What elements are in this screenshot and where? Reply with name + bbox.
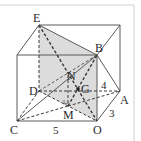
dimension-CO: 5 bbox=[53, 124, 59, 136]
dimension-OA: 3 bbox=[109, 107, 115, 119]
point-G bbox=[76, 87, 80, 91]
label-D: D bbox=[29, 84, 38, 98]
label-M: M bbox=[63, 108, 74, 122]
label-G: G bbox=[81, 82, 90, 96]
label-N: N bbox=[67, 69, 76, 83]
geometry-figure: E B N D G A M C O 4 3 5 bbox=[0, 0, 141, 141]
label-B: B bbox=[95, 41, 103, 55]
label-O: O bbox=[93, 123, 102, 137]
dimension-height: 4 bbox=[101, 79, 107, 91]
label-E: E bbox=[33, 11, 40, 25]
label-A: A bbox=[120, 93, 129, 107]
label-C: C bbox=[10, 123, 18, 137]
